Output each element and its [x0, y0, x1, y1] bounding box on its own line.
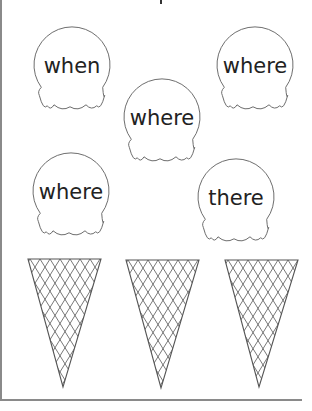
waffle-line — [91, 259, 170, 387]
scoop-word: where — [130, 106, 195, 130]
waffle-line — [109, 260, 188, 388]
cone-outline — [126, 260, 199, 388]
cone-right[interactable] — [19, 260, 312, 387]
waffle-line — [308, 260, 312, 387]
waffle-line — [49, 260, 128, 387]
waffle-line — [31, 259, 110, 387]
waffle-line — [228, 260, 307, 387]
scoop-word: there — [208, 186, 264, 210]
scoop-word: where — [39, 180, 104, 204]
scoop-where-middle[interactable]: where — [124, 79, 200, 161]
waffle-line — [149, 260, 228, 388]
waffle-line — [79, 260, 158, 388]
waffle-line — [98, 260, 177, 388]
waffle-line — [0, 259, 10, 387]
scoop-there[interactable]: there — [198, 159, 274, 241]
waffle-line — [0, 259, 40, 387]
waffle-line — [0, 259, 79, 387]
waffle-line — [1, 259, 80, 387]
waffle-line — [0, 260, 48, 388]
waffle-line — [121, 259, 200, 387]
waffle-line — [0, 259, 9, 387]
waffle-line — [78, 260, 157, 388]
waffle-line — [298, 260, 312, 387]
waffle-line — [159, 260, 238, 388]
waffle-line — [99, 260, 178, 388]
scoop-where-top-right[interactable]: where — [217, 27, 293, 109]
waffle-line — [229, 260, 308, 387]
waffle-line — [0, 259, 50, 387]
waffle-line — [159, 260, 238, 387]
bottom-rule — [0, 399, 302, 401]
waffle-line — [108, 260, 187, 388]
waffle-line — [61, 259, 140, 387]
waffle-line — [39, 260, 118, 387]
waffle-line — [278, 260, 312, 388]
waffle-line — [9, 260, 88, 388]
scoop-word: where — [223, 54, 288, 78]
waffle-line — [219, 260, 298, 387]
scoop-word: when — [44, 54, 101, 78]
waffle-line — [0, 259, 29, 387]
waffle-line — [40, 259, 119, 387]
waffle-line — [0, 259, 69, 387]
waffle-line — [0, 259, 19, 387]
waffle-line — [10, 259, 89, 387]
waffle-line — [41, 259, 120, 387]
waffle-line — [178, 260, 257, 388]
waffle-line — [81, 259, 160, 387]
waffle-line — [269, 260, 312, 387]
cone-outline — [28, 259, 101, 387]
waffle-line — [0, 260, 38, 388]
waffle-line — [138, 260, 217, 388]
waffle-pattern — [19, 260, 312, 387]
waffle-line — [158, 260, 237, 388]
waffle-line — [299, 260, 312, 387]
waffle-line — [0, 259, 60, 387]
waffle-line — [209, 260, 288, 387]
waffle-line — [170, 259, 249, 387]
waffle-line — [60, 259, 139, 387]
scoop-where-lower-left[interactable]: where — [33, 153, 109, 235]
waffle-line — [188, 260, 267, 387]
waffle-line — [0, 259, 20, 387]
waffle-line — [169, 260, 248, 387]
waffle-line — [119, 260, 198, 388]
waffle-line — [0, 260, 77, 388]
waffle-line — [59, 260, 138, 387]
worksheet-canvas: when where where where there — [0, 0, 312, 411]
waffle-line — [50, 259, 129, 387]
waffle-line — [238, 260, 312, 388]
waffle-line — [279, 260, 312, 387]
waffle-line — [129, 260, 208, 388]
waffle-line — [101, 259, 180, 387]
waffle-line — [131, 259, 210, 387]
waffle-line — [160, 259, 239, 387]
waffle-line — [208, 260, 287, 387]
waffle-line — [278, 260, 312, 387]
waffle-line — [179, 260, 258, 387]
waffle-line — [189, 260, 268, 387]
waffle-line — [298, 260, 312, 388]
waffle-line — [111, 259, 190, 387]
waffle-line — [0, 259, 30, 387]
waffle-line — [198, 260, 277, 388]
waffle-line — [21, 259, 100, 387]
waffle-line — [0, 260, 78, 388]
scoop-when[interactable]: when — [34, 27, 110, 109]
waffle-line — [11, 259, 90, 387]
waffle-line — [309, 260, 312, 387]
waffle-line — [308, 260, 312, 388]
waffle-line — [118, 260, 197, 388]
waffle-line — [199, 260, 278, 387]
waffle-line — [128, 260, 207, 388]
cone-middle[interactable] — [0, 260, 312, 388]
waffle-line — [0, 260, 18, 388]
waffle-line — [0, 260, 28, 388]
waffle-line — [0, 260, 8, 388]
waffle-line — [19, 260, 98, 387]
waffle-line — [30, 259, 109, 387]
waffle-line — [148, 260, 227, 388]
waffle-line — [51, 259, 130, 387]
waffle-line — [20, 259, 99, 387]
